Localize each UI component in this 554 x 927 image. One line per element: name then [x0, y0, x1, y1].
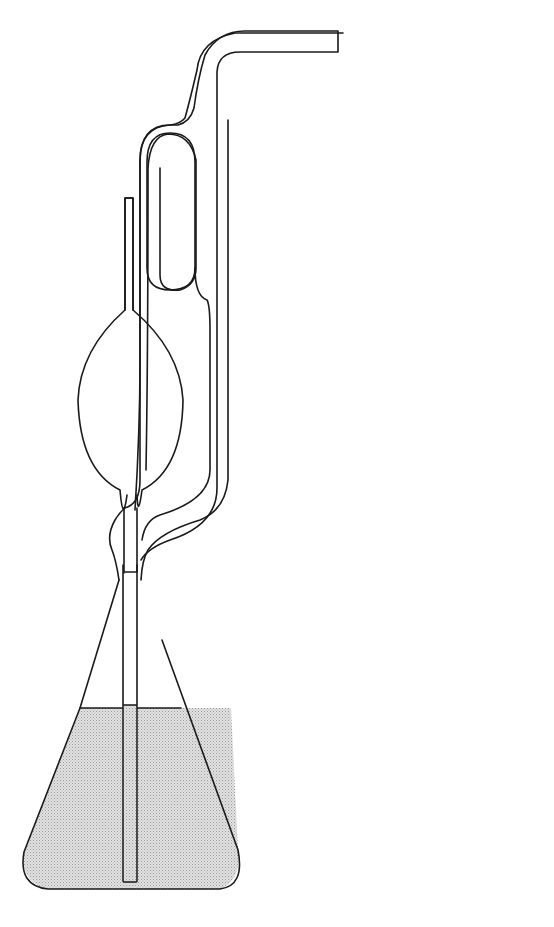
- mcleod-gauge-diagram: [0, 0, 554, 927]
- dip-tube: [123, 565, 137, 882]
- bulb-v: [78, 198, 183, 509]
- capillary-a: [125, 198, 133, 310]
- panel-a: [23, 31, 343, 889]
